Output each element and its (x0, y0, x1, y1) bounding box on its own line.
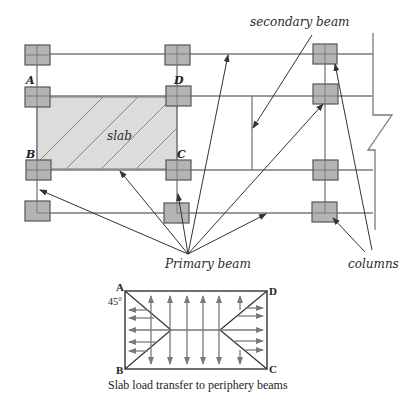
load-corner-a: A (116, 281, 124, 293)
columns-label: columns (348, 257, 399, 271)
load-corner-c: C (269, 363, 277, 375)
corner-label-c: C (177, 148, 186, 161)
primary-beam-label: Primary beam (164, 257, 251, 271)
slab-label: slab (107, 129, 132, 143)
corner-label-a: A (25, 74, 35, 87)
load-corner-d: D (269, 285, 277, 297)
diagram-caption: Slab load transfer to periphery beams (108, 378, 288, 392)
secondary-beam-label: secondary beam (250, 15, 349, 29)
structural-plan-diagram: secondary beam slab Primary beam columns… (0, 0, 413, 403)
angle-label: 45° (108, 296, 122, 307)
corner-label-b: B (25, 148, 35, 161)
corner-label-d: D (173, 74, 184, 87)
secondary-beam-leader (253, 35, 312, 128)
load-corner-b: B (116, 364, 124, 376)
columns-leaders (333, 64, 372, 252)
load-transfer-diagram: A D B C 45° (108, 281, 277, 376)
